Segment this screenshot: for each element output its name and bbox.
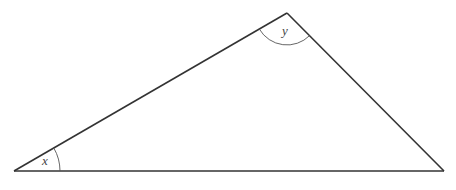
- triangle-diagram: x y: [0, 0, 456, 190]
- triangle: [14, 13, 444, 171]
- angle-x-arc: [54, 148, 60, 171]
- angle-x-label: x: [41, 153, 48, 168]
- edge-apex-right: [287, 13, 444, 171]
- angle-y-label: y: [280, 23, 288, 38]
- edge-left-apex: [14, 13, 287, 171]
